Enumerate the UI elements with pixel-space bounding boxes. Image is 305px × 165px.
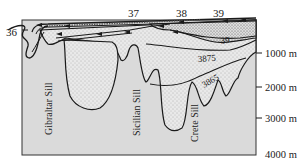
sill-label-sicilian: Sicilian Sill (131, 89, 142, 136)
depth-axis (256, 53, 262, 118)
station-label-38: 38 (176, 7, 188, 19)
sill-label-gibraltar: Gibraltar Sill (43, 82, 54, 135)
depth-tick-1000: 1000 m (265, 48, 297, 59)
sill-label-crete: Crete Sill (189, 104, 200, 142)
station-label-36: 36 (6, 26, 18, 38)
station-label-37: 37 (128, 7, 140, 19)
isoline-label-3875: 3875 (197, 53, 216, 64)
depth-tick-2000: 2000 m (265, 82, 297, 93)
depth-tick-4000: 4000 m (265, 149, 297, 160)
mediterranean-section-diagram: 36 37 38 39 39 3875 3865 Gibraltar Sill … (0, 0, 305, 165)
station-label-39: 39 (213, 7, 225, 19)
depth-tick-3000: 3000 m (265, 113, 297, 124)
